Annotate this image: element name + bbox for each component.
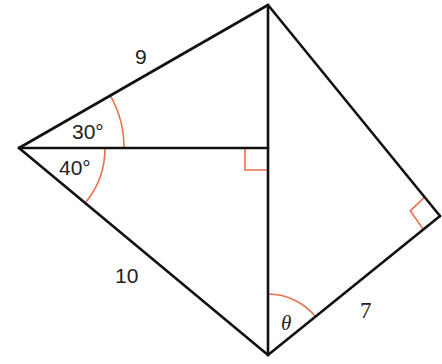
side-label-top: 9 — [135, 45, 147, 68]
edge-left-top — [19, 5, 268, 148]
angle-30-arc — [110, 95, 124, 148]
edge-left-bottom — [19, 148, 268, 355]
angle-theta-arc — [268, 294, 316, 318]
side-label-bottom: 10 — [115, 264, 138, 287]
diagram-svg: 9 10 7 30° 40° θ — [0, 0, 442, 364]
right-angle-right-marker — [410, 197, 424, 229]
edge-right-bottom — [268, 216, 440, 355]
geometry-diagram: 9 10 7 30° 40° θ — [0, 0, 442, 364]
angle-label-theta: θ — [281, 311, 291, 335]
angle-label-30: 30° — [72, 120, 104, 143]
edge-top-right — [268, 5, 440, 216]
side-label-right: 7 — [360, 298, 372, 323]
angle-label-40: 40° — [59, 156, 91, 179]
right-angle-foot-marker — [245, 148, 268, 170]
